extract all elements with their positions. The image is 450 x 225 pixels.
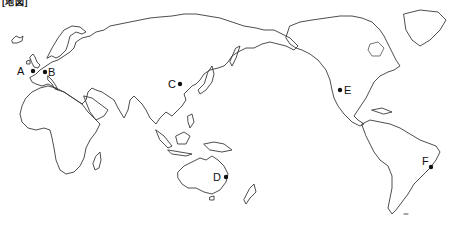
label-b: B bbox=[48, 67, 55, 78]
philippines bbox=[188, 114, 194, 128]
greenland bbox=[404, 10, 446, 46]
borneo bbox=[176, 132, 190, 144]
point-a-marker bbox=[31, 69, 35, 73]
new-guinea bbox=[204, 142, 232, 152]
africa bbox=[20, 86, 100, 174]
iceland bbox=[12, 36, 23, 43]
label-a: A bbox=[17, 66, 24, 77]
madagascar bbox=[93, 152, 101, 170]
point-f-marker bbox=[429, 165, 433, 169]
point-e-marker bbox=[338, 88, 342, 92]
british-isles bbox=[27, 54, 40, 68]
arabia bbox=[84, 96, 108, 120]
eurasia bbox=[30, 14, 298, 124]
label-e: E bbox=[344, 85, 351, 96]
tasmania bbox=[210, 196, 214, 200]
new-zealand bbox=[244, 184, 256, 204]
hudson-bay bbox=[368, 42, 384, 56]
south-america bbox=[362, 120, 440, 214]
point-d-marker bbox=[224, 175, 228, 179]
label-f: F bbox=[422, 156, 429, 167]
point-b-marker bbox=[43, 70, 47, 74]
label-d: D bbox=[213, 172, 221, 183]
point-c-marker bbox=[178, 82, 182, 86]
world-map bbox=[0, 0, 450, 225]
sumatra bbox=[156, 130, 172, 148]
north-america bbox=[286, 16, 400, 126]
label-c: C bbox=[168, 79, 176, 90]
cuba bbox=[372, 108, 392, 114]
scandinavia bbox=[47, 26, 86, 58]
java bbox=[168, 150, 192, 156]
